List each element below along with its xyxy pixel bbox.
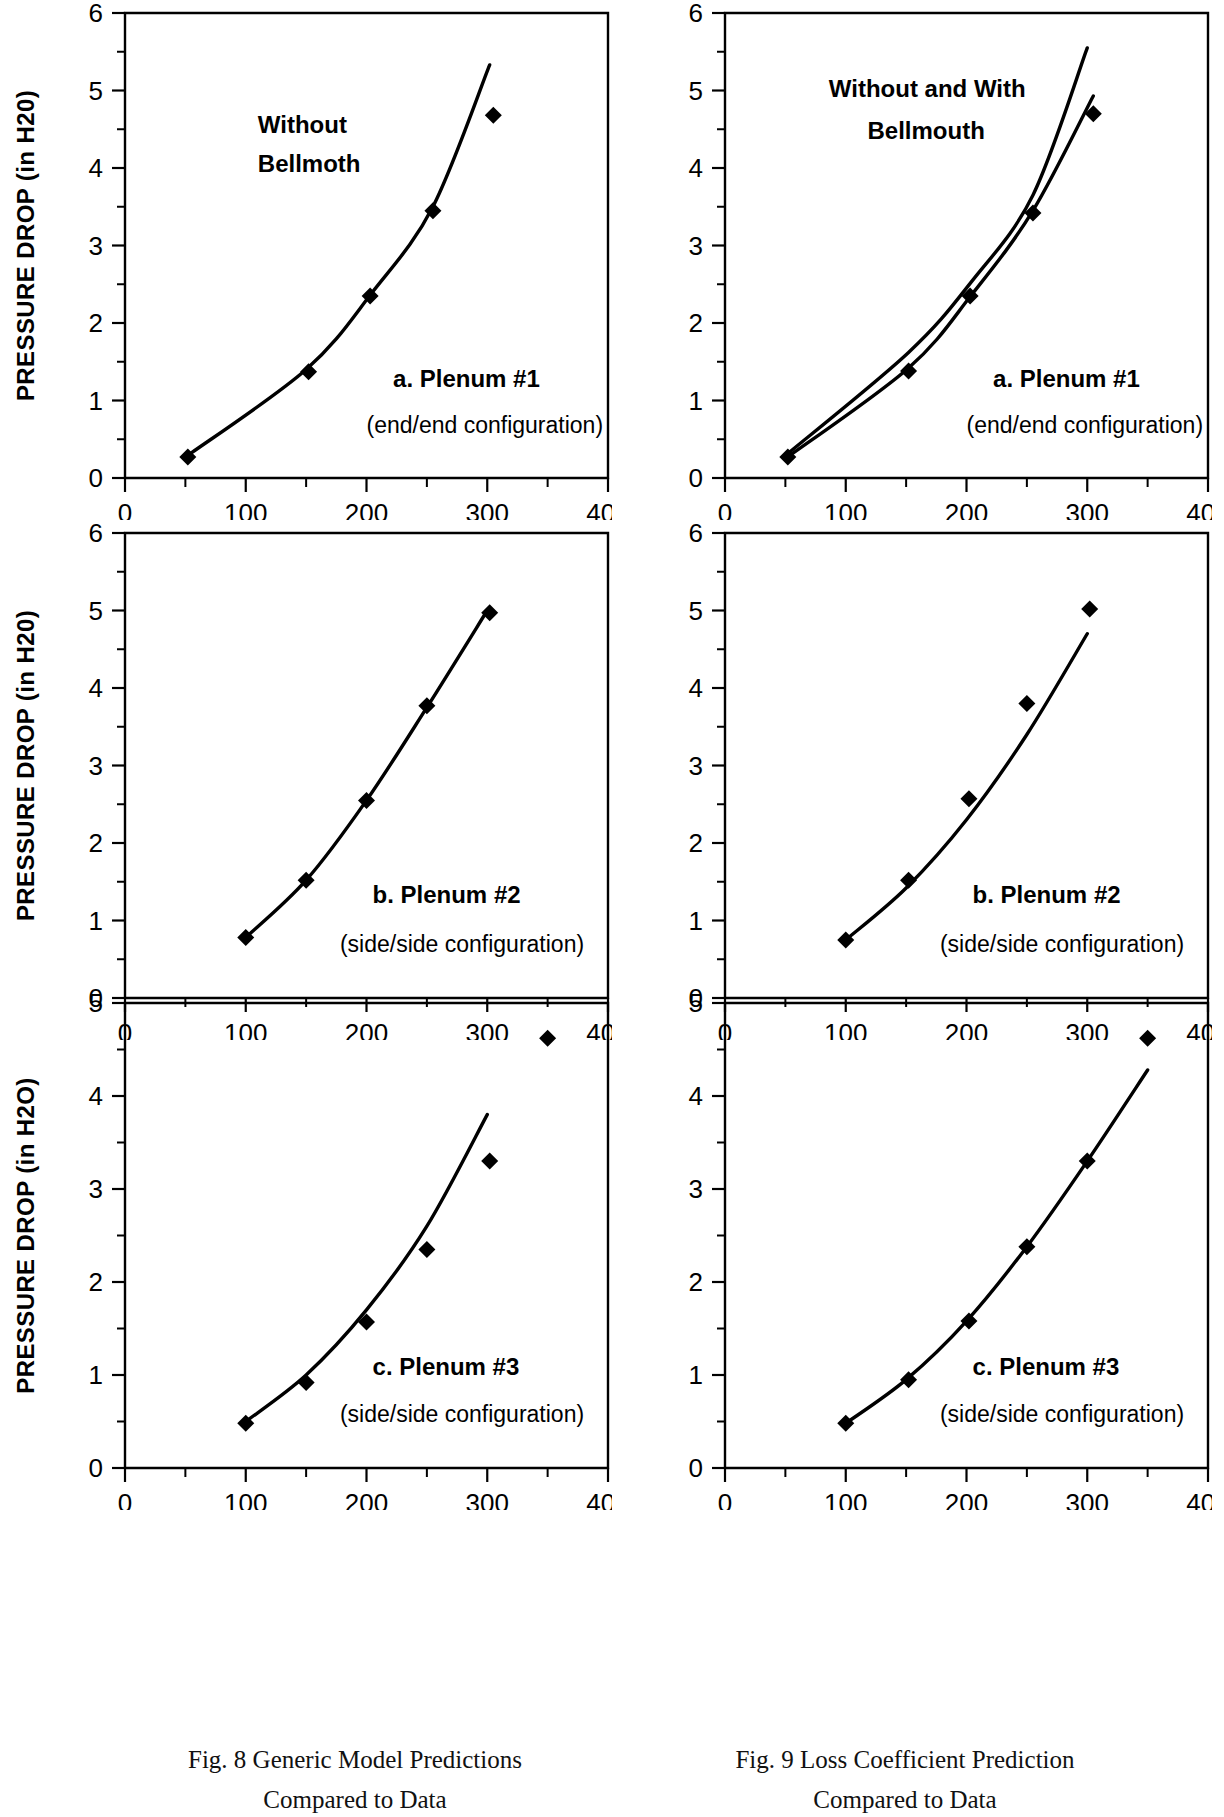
x-tick-label: 100 bbox=[824, 1488, 867, 1510]
y-tick-label: 3 bbox=[89, 751, 103, 781]
y-tick-label: 1 bbox=[689, 906, 703, 936]
x-tick-label: 100 bbox=[824, 498, 867, 520]
x-tick-label: 100 bbox=[224, 1488, 267, 1510]
chart-annotation: Without and With bbox=[829, 75, 1026, 102]
plot-frame bbox=[725, 1003, 1208, 1468]
chart-panel-fig9-c: 0123450100200300400FLOW RATE (CFM)c. Ple… bbox=[600, 990, 1212, 1510]
y-tick-label: 4 bbox=[89, 153, 103, 183]
chart-annotation: a. Plenum #1 bbox=[393, 365, 540, 392]
y-tick-label: 6 bbox=[89, 520, 103, 548]
x-tick-label: 0 bbox=[718, 1488, 732, 1510]
y-tick-label: 4 bbox=[689, 1081, 703, 1111]
chart-panel-fig8-b: 01234560100200300400PRESSURE DROP (in H2… bbox=[0, 520, 612, 1040]
y-tick-label: 3 bbox=[89, 231, 103, 261]
y-tick-label: 2 bbox=[689, 308, 703, 338]
y-axis: 0123456 bbox=[89, 0, 125, 493]
y-tick-label: 2 bbox=[689, 828, 703, 858]
y-tick-label: 4 bbox=[689, 673, 703, 703]
chart-annotation: b. Plenum #2 bbox=[373, 881, 521, 908]
y-axis: 012345 bbox=[689, 990, 725, 1483]
y-tick-label: 2 bbox=[89, 828, 103, 858]
y-tick-label: 3 bbox=[689, 231, 703, 261]
x-tick-label: 100 bbox=[224, 498, 267, 520]
plot-frame bbox=[725, 533, 1208, 998]
plot-frame bbox=[125, 13, 608, 478]
data-point-marker bbox=[900, 363, 917, 380]
x-axis: 0100200300400 bbox=[718, 1468, 1212, 1510]
data-point-marker bbox=[539, 1030, 556, 1047]
y-tick-label: 0 bbox=[689, 463, 703, 493]
y-tick-label: 0 bbox=[89, 1453, 103, 1483]
data-point-marker bbox=[485, 107, 502, 124]
caption-right-line2: Compared to Data bbox=[640, 1780, 1170, 1817]
data-point-marker bbox=[900, 872, 917, 889]
data-point-marker bbox=[481, 1153, 498, 1170]
caption-left-line2: Compared to Data bbox=[90, 1780, 620, 1817]
x-tick-label: 0 bbox=[118, 498, 132, 520]
data-point-marker bbox=[300, 363, 317, 380]
x-axis: 0100200300400 bbox=[718, 478, 1212, 520]
data-point-marker bbox=[960, 790, 977, 807]
x-tick-label: 300 bbox=[466, 1488, 509, 1510]
x-tick-label: 200 bbox=[945, 498, 988, 520]
y-tick-label: 5 bbox=[689, 990, 703, 1018]
x-tick-label: 300 bbox=[1066, 1488, 1109, 1510]
chart-panel-fig8-c: 0123450100200300400PRESSURE DROP (in H2O… bbox=[0, 990, 612, 1510]
x-tick-label: 200 bbox=[345, 498, 388, 520]
plot-frame bbox=[125, 1003, 608, 1468]
y-tick-label: 3 bbox=[689, 751, 703, 781]
x-tick-label: 200 bbox=[945, 1488, 988, 1510]
y-axis: 0123456 bbox=[89, 520, 125, 1013]
y-tick-label: 4 bbox=[89, 1081, 103, 1111]
y-tick-label: 5 bbox=[89, 76, 103, 106]
x-tick-label: 200 bbox=[345, 1488, 388, 1510]
y-tick-label: 1 bbox=[89, 1360, 103, 1390]
y-tick-label: 6 bbox=[689, 0, 703, 28]
x-tick-label: 0 bbox=[718, 498, 732, 520]
y-tick-label: 0 bbox=[89, 463, 103, 493]
x-tick-label: 300 bbox=[466, 498, 509, 520]
y-axis: 012345 bbox=[89, 990, 125, 1483]
chart-annotation: Without bbox=[258, 111, 347, 138]
chart-annotation: (side/side configuration) bbox=[340, 1401, 584, 1427]
plot-frame bbox=[125, 533, 608, 998]
chart-annotation: c. Plenum #3 bbox=[973, 1353, 1120, 1380]
x-tick-label: 0 bbox=[118, 1488, 132, 1510]
chart-annotation: Bellmoth bbox=[258, 150, 361, 177]
chart-annotation: (side/side configuration) bbox=[940, 1401, 1184, 1427]
series-line bbox=[785, 48, 1087, 456]
data-point-marker bbox=[1081, 600, 1098, 617]
y-tick-label: 5 bbox=[89, 990, 103, 1018]
y-tick-label: 2 bbox=[689, 1267, 703, 1297]
data-point-marker bbox=[1018, 695, 1035, 712]
chart-annotation: Bellmouth bbox=[867, 117, 984, 144]
y-axis-title: PRESSURE DROP (in H20) bbox=[12, 610, 39, 921]
figure-caption-right: Fig. 9 Loss Coefficient Prediction Compa… bbox=[640, 1740, 1170, 1817]
chart-annotation: c. Plenum #3 bbox=[373, 1353, 520, 1380]
chart-annotation: b. Plenum #2 bbox=[973, 881, 1121, 908]
y-tick-label: 2 bbox=[89, 1267, 103, 1297]
x-tick-label: 400 bbox=[1186, 1488, 1212, 1510]
y-tick-label: 5 bbox=[689, 76, 703, 106]
y-axis: 0123456 bbox=[689, 520, 725, 1013]
chart-annotation: (end/end configuration) bbox=[367, 412, 604, 438]
y-tick-label: 1 bbox=[89, 386, 103, 416]
y-tick-label: 6 bbox=[89, 0, 103, 28]
x-axis: 0100200300400 bbox=[118, 478, 612, 520]
chart-annotation: (side/side configuration) bbox=[340, 931, 584, 957]
chart-annotation: (end/end configuration) bbox=[967, 412, 1204, 438]
x-tick-label: 300 bbox=[1066, 498, 1109, 520]
y-tick-label: 1 bbox=[689, 1360, 703, 1390]
y-tick-label: 1 bbox=[689, 386, 703, 416]
data-point-marker bbox=[1139, 1030, 1156, 1047]
caption-left-line1: Fig. 8 Generic Model Predictions bbox=[90, 1740, 620, 1780]
chart-panel-fig9-a: 01234560100200300400Without and WithBell… bbox=[600, 0, 1212, 520]
x-tick-label: 400 bbox=[1186, 498, 1212, 520]
data-point-marker bbox=[298, 1374, 315, 1391]
y-tick-label: 3 bbox=[89, 1174, 103, 1204]
chart-annotation: (side/side configuration) bbox=[940, 931, 1184, 957]
y-tick-label: 0 bbox=[689, 1453, 703, 1483]
y-tick-label: 5 bbox=[689, 596, 703, 626]
series-line bbox=[785, 96, 1093, 459]
